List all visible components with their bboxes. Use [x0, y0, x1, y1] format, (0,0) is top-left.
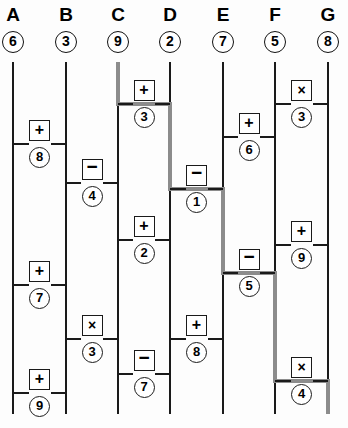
column-start-value-F: 5: [264, 31, 286, 53]
rung-de-p8-right: [208, 338, 224, 340]
rung-bc-m4-right: [103, 182, 118, 184]
column-start-value-A: 6: [2, 31, 24, 53]
column-letter-B: B: [51, 4, 81, 26]
operator-times-icon-bc-x3: ×: [82, 315, 103, 336]
operand-ab-p7: 7: [29, 288, 50, 309]
rung-cd-p2-right: [155, 239, 170, 241]
rung-bc-m4-left: [66, 182, 81, 184]
column-letter-D: D: [155, 4, 185, 26]
operand-ef-p6: 6: [239, 140, 260, 161]
rung-cd-m7-left: [118, 373, 133, 375]
path-segment-vertical-G: [326, 381, 331, 414]
column-start-value-C: 9: [107, 31, 129, 53]
operator-minus-icon-bc-m4: −: [82, 159, 103, 180]
operand-cd-p3: 3: [134, 107, 155, 128]
rung-fg-x3-left: [275, 103, 291, 105]
operand-cd-p2: 2: [134, 243, 155, 264]
operand-de-p8: 8: [186, 342, 207, 363]
operator-plus-icon-cd-p3: +: [134, 80, 155, 101]
operand-de-m1: 1: [186, 192, 207, 213]
rung-ef-m5-left: [223, 272, 238, 274]
operator-times-icon-fg-x4: ×: [291, 357, 312, 378]
rail-G: [327, 62, 329, 414]
operator-minus-icon-de-m1: −: [186, 165, 207, 186]
operator-plus-icon-ab-p8: +: [29, 120, 50, 141]
path-segment-vertical-E: [221, 189, 226, 273]
operand-ef-m5: 5: [239, 276, 260, 297]
operand-ab-p8: 8: [29, 147, 50, 168]
rung-fg-p9-right: [313, 244, 329, 246]
operator-plus-icon-ab-p7: +: [29, 261, 50, 282]
rung-ab-p8-right: [51, 143, 67, 145]
rung-de-m1-right: [208, 188, 224, 190]
rung-fg-x3-right: [313, 103, 329, 105]
operator-minus-icon-ef-m5: −: [239, 249, 260, 270]
column-letter-A: A: [0, 4, 28, 26]
operator-plus-icon-cd-p2: +: [134, 216, 155, 237]
path-segment-vertical-C: [116, 62, 121, 104]
column-letter-G: G: [313, 4, 343, 26]
column-letter-C: C: [103, 4, 133, 26]
path-segment-vertical-F: [273, 273, 278, 381]
column-start-value-G: 8: [317, 31, 339, 53]
operand-ab-p9: 9: [29, 396, 50, 417]
column-letter-F: F: [260, 4, 290, 26]
rail-A: [12, 62, 14, 414]
rung-bc-x3-right: [103, 338, 118, 340]
operator-plus-icon-ab-p9: +: [29, 369, 50, 390]
rung-fg-x4-left: [275, 380, 291, 382]
rail-B: [65, 62, 67, 414]
rung-ab-p9-right: [51, 392, 67, 394]
rung-de-p8-left: [170, 338, 186, 340]
rung-fg-p9-left: [275, 244, 291, 246]
operator-plus-icon-de-p8: +: [186, 315, 207, 336]
path-segment-vertical-D: [168, 104, 173, 189]
rung-ef-m5-right: [260, 272, 275, 274]
operator-minus-icon-cd-m7: −: [134, 350, 155, 371]
column-start-value-B: 3: [55, 31, 77, 53]
operand-fg-p9: 9: [291, 248, 312, 269]
operator-plus-icon-fg-p9: +: [291, 221, 312, 242]
operand-bc-x3: 3: [82, 342, 103, 363]
rung-cd-p3-left: [118, 103, 133, 105]
rung-ab-p7-right: [51, 284, 67, 286]
rung-ab-p9-left: [13, 392, 29, 394]
rung-ef-p6-left: [223, 136, 238, 138]
column-start-value-E: 7: [212, 31, 234, 53]
operator-times-icon-fg-x3: ×: [291, 80, 312, 101]
rung-ef-p6-right: [260, 136, 275, 138]
operand-cd-m7: 7: [134, 377, 155, 398]
rung-de-m1-left: [170, 188, 186, 190]
rung-bc-x3-left: [66, 338, 81, 340]
operand-fg-x3: 3: [291, 107, 312, 128]
rung-cd-p2-left: [118, 239, 133, 241]
rung-fg-x4-right: [313, 380, 329, 382]
rung-ab-p8-left: [13, 143, 29, 145]
column-letter-E: E: [208, 4, 238, 26]
rung-ab-p7-left: [13, 284, 29, 286]
operand-fg-x4: 4: [291, 384, 312, 405]
column-start-value-D: 2: [159, 31, 181, 53]
operand-bc-m4: 4: [82, 186, 103, 207]
rung-cd-p3-right: [155, 103, 170, 105]
rung-cd-m7-right: [155, 373, 170, 375]
ladder-puzzle-diagram: ×3+3+6+8−4−1+2+9−5+7×3+8−7×4+9 A6B3C9D2E…: [0, 0, 348, 428]
operator-plus-icon-ef-p6: +: [239, 113, 260, 134]
